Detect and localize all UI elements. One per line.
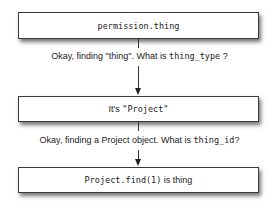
transition-label-2: Okay, finding a Project object. What is … bbox=[0, 135, 279, 146]
step-3-code: Project.find(1) bbox=[85, 175, 162, 185]
step-2-code: "Project" bbox=[122, 104, 168, 114]
step-2-prefix: It's bbox=[109, 104, 123, 114]
transition-1-text: Okay, finding "thing". What is bbox=[51, 51, 169, 61]
connector-line bbox=[138, 122, 139, 131]
transition-2-code: thing_id bbox=[193, 135, 234, 145]
step-box-project-type: It's "Project" bbox=[18, 96, 259, 122]
connector-line bbox=[138, 39, 139, 48]
transition-2-text: Okay, finding a Project object. What is bbox=[40, 135, 194, 145]
connector-line bbox=[138, 66, 139, 89]
arrow-down-icon bbox=[135, 88, 141, 95]
step-box-project-find: Project.find(1) is thing bbox=[18, 167, 259, 193]
transition-1-code: thing_type bbox=[169, 51, 220, 61]
transition-label-1: Okay, finding "thing". What is thing_typ… bbox=[0, 51, 279, 62]
step-box-permission-thing: permission.thing bbox=[18, 12, 259, 39]
step-3-suffix: is thing bbox=[161, 175, 192, 185]
transition-2-suffix: ? bbox=[234, 135, 239, 145]
transition-1-suffix: ? bbox=[220, 51, 228, 61]
arrow-down-icon bbox=[135, 159, 141, 166]
step-1-code: permission.thing bbox=[98, 21, 180, 31]
